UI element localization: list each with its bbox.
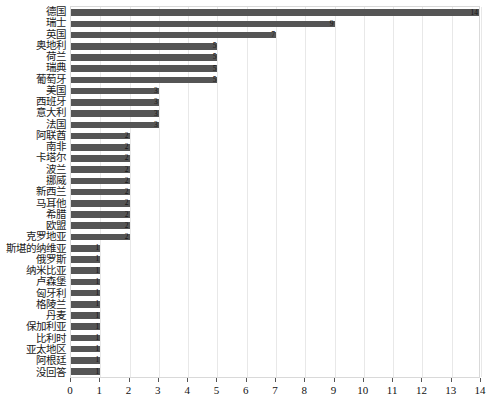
x-tick-label: 12 <box>416 384 427 396</box>
bar-value-label: 1 <box>96 278 100 286</box>
bar-value-label: 3 <box>154 87 158 95</box>
category-label: 瑞士 <box>0 17 68 28</box>
x-tick-label: 4 <box>184 384 190 396</box>
bar-value-label: 1 <box>96 312 100 320</box>
bar-row: 5 <box>71 52 479 63</box>
x-axis: 01234567891011121314 <box>70 378 480 408</box>
bar-value-label: 2 <box>125 200 129 208</box>
bar-value-label: 14 <box>471 9 479 17</box>
bar-row: 14 <box>71 7 479 18</box>
bar: 5 <box>71 54 217 61</box>
bar: 9 <box>71 21 335 28</box>
bar-row: 1 <box>71 299 479 310</box>
bar: 1 <box>71 245 100 252</box>
x-tick-label: 14 <box>475 384 486 396</box>
bar-value-label: 2 <box>125 166 129 174</box>
bar-value-label: 9 <box>330 20 334 28</box>
category-label: 阿根廷 <box>0 355 68 366</box>
bar-row: 1 <box>71 287 479 298</box>
bar: 3 <box>71 88 159 95</box>
bar: 5 <box>71 77 217 84</box>
bar: 1 <box>71 368 100 375</box>
bar-value-label: 1 <box>96 368 100 376</box>
x-tick-mark <box>216 378 217 382</box>
bar-value-label: 1 <box>96 357 100 365</box>
bar: 1 <box>71 256 100 263</box>
bar: 1 <box>71 346 100 353</box>
bar-row: 1 <box>71 310 479 321</box>
category-label: 没回答 <box>0 367 68 378</box>
bar-row: 2 <box>71 130 479 141</box>
bar: 1 <box>71 267 100 274</box>
bar-row: 1 <box>71 344 479 355</box>
bar-value-label: 2 <box>125 143 129 151</box>
x-tick-mark <box>246 378 247 382</box>
bar-value-label: 1 <box>96 323 100 331</box>
bar: 1 <box>71 279 100 286</box>
x-tick-label: 5 <box>214 384 220 396</box>
x-tick-mark <box>304 378 305 382</box>
plot-area: 1497555533332222222222111111111111 <box>70 6 480 378</box>
x-tick-label: 8 <box>302 384 308 396</box>
bar-row: 2 <box>71 198 479 209</box>
bar-row: 2 <box>71 187 479 198</box>
bar: 3 <box>71 99 159 106</box>
x-tick-label: 1 <box>97 384 103 396</box>
bar-row: 2 <box>71 209 479 220</box>
category-label: 瑞典 <box>0 62 68 73</box>
bar-row: 1 <box>71 355 479 366</box>
bar: 2 <box>71 211 130 218</box>
bar-row: 1 <box>71 254 479 265</box>
bar: 1 <box>71 301 100 308</box>
category-label: 保加利亚 <box>0 321 68 332</box>
x-tick-mark <box>70 378 71 382</box>
bar: 1 <box>71 335 100 342</box>
bar: 1 <box>71 290 100 297</box>
bar-row: 3 <box>71 108 479 119</box>
x-tick-label: 7 <box>272 384 278 396</box>
bar-value-label: 2 <box>125 188 129 196</box>
x-tick-label: 11 <box>387 384 398 396</box>
bar: 3 <box>71 110 159 117</box>
bar-row: 2 <box>71 142 479 153</box>
x-tick-mark <box>451 378 452 382</box>
x-tick-mark <box>480 378 481 382</box>
bar-value-label: 3 <box>154 99 158 107</box>
bar-value-label: 2 <box>125 132 129 140</box>
bar-series: 1497555533332222222222111111111111 <box>71 7 479 377</box>
bar-row: 3 <box>71 97 479 108</box>
bar-value-label: 1 <box>96 345 100 353</box>
bar-row: 2 <box>71 231 479 242</box>
bar-row: 5 <box>71 63 479 74</box>
bar-row: 1 <box>71 332 479 343</box>
bar-value-label: 2 <box>125 233 129 241</box>
bar-row: 5 <box>71 41 479 52</box>
bar-value-label: 1 <box>96 289 100 297</box>
bar-value-label: 5 <box>213 54 217 62</box>
bar: 2 <box>71 166 130 173</box>
category-axis-labels: 德国瑞士英国奥地利荷兰瑞典葡萄牙美国西班牙意大利法国阿联酋南非卡塔尔波兰挪威新西… <box>0 6 68 378</box>
x-tick-label: 9 <box>331 384 337 396</box>
bar-value-label: 2 <box>125 211 129 219</box>
category-label: 卢森堡 <box>0 276 68 287</box>
bar-row: 2 <box>71 175 479 186</box>
x-tick-mark <box>392 378 393 382</box>
category-label: 克罗地亚 <box>0 231 68 242</box>
bar-row: 9 <box>71 18 479 29</box>
bar-value-label: 2 <box>125 177 129 185</box>
x-tick-mark <box>99 378 100 382</box>
x-tick-mark <box>275 378 276 382</box>
x-tick-mark <box>187 378 188 382</box>
bar-value-label: 3 <box>154 110 158 118</box>
bar-value-label: 3 <box>154 121 158 129</box>
x-tick-label: 3 <box>155 384 161 396</box>
bar-value-label: 1 <box>96 301 100 309</box>
bar-value-label: 1 <box>96 244 100 252</box>
bar: 2 <box>71 155 130 162</box>
bar-row: 2 <box>71 220 479 231</box>
bar-row: 1 <box>71 321 479 332</box>
bar: 5 <box>71 65 217 72</box>
x-tick-mark <box>334 378 335 382</box>
bar-value-label: 2 <box>125 222 129 230</box>
category-label: 新西兰 <box>0 186 68 197</box>
